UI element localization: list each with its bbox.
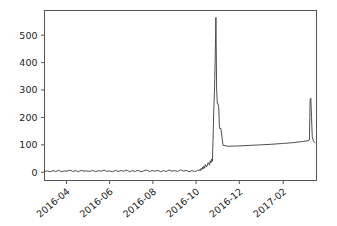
y-tick-label: 0 <box>31 167 37 178</box>
figure-canvas: 0100200300400500 2016-042016-062016-0820… <box>0 0 337 226</box>
y-tick-label: 200 <box>19 112 37 123</box>
y-tick-label: 300 <box>19 84 37 95</box>
y-tick-label: 400 <box>19 57 37 68</box>
y-tick-label: 100 <box>19 139 37 150</box>
y-tick-label: 500 <box>19 30 37 41</box>
line-chart: 0100200300400500 2016-042016-062016-0820… <box>0 0 337 226</box>
